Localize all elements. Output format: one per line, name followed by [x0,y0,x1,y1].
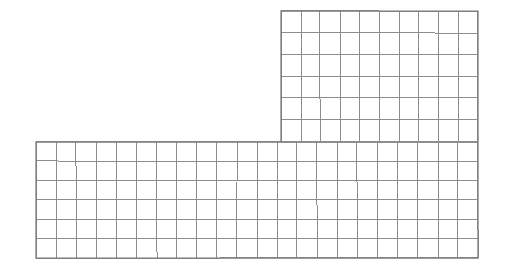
grid-line-horizontal [281,76,478,77]
grid-line-horizontal [281,33,478,34]
grid-canvas [0,0,506,275]
figure-root [0,0,506,275]
